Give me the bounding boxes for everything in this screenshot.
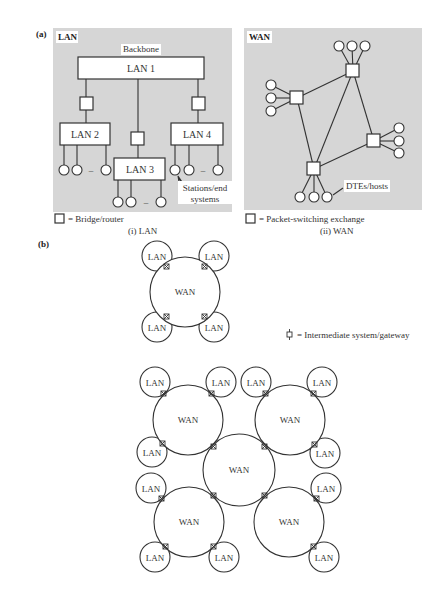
svg-text:WAN: WAN (175, 287, 196, 297)
bridge-router-icon (131, 132, 144, 145)
lan-3-label: LAN 3 (126, 164, 154, 175)
wan-panel-background (244, 28, 422, 210)
station-icon (170, 165, 180, 175)
station-icon (184, 165, 194, 175)
pse-legend-icon (246, 214, 255, 223)
station-icon (113, 197, 123, 207)
svg-text:LAN: LAN (146, 378, 165, 388)
station-icon (72, 165, 82, 175)
svg-text:LAN: LAN (143, 448, 162, 458)
station-icon (213, 165, 223, 175)
simple-internetwork: LAN LAN LAN LAN WAN (142, 241, 229, 342)
wan-panel: WAN (244, 28, 422, 210)
packet-switching-exchange-icon (367, 134, 380, 147)
svg-text:LAN: LAN (247, 378, 266, 388)
svg-text:WAN: WAN (229, 465, 250, 475)
lan-panel: LAN Backbone LAN 1 LAN 2 LAN 4 (53, 28, 232, 212)
lan-panel-title: LAN (58, 32, 78, 42)
host-icon (394, 136, 404, 146)
bridge-router-icon (80, 97, 93, 110)
host-icon (334, 41, 344, 51)
lan-2-label: LAN 2 (71, 129, 99, 140)
bridge-router-icon (192, 97, 205, 110)
svg-text:LAN: LAN (315, 553, 334, 563)
wan-panel-title: WAN (249, 32, 271, 42)
svg-text:LAN: LAN (142, 484, 161, 494)
host-icon (394, 148, 404, 158)
host-icon (266, 106, 276, 116)
svg-text:WAN: WAN (279, 517, 300, 527)
part-a-label: (a) (36, 29, 47, 39)
networking-figure: (a) LAN Backbone LAN 1 LAN 2 (0, 0, 445, 603)
svg-text:LAN: LAN (215, 553, 234, 563)
stations-label-2: systems (191, 194, 220, 204)
host-icon (266, 80, 276, 90)
svg-text:–: – (143, 197, 149, 207)
station-icon (101, 165, 111, 175)
bridge-router-legend-icon (55, 214, 64, 223)
svg-text:LAN: LAN (205, 252, 224, 262)
lan-caption: (i) LAN (128, 226, 158, 236)
svg-text:LAN: LAN (205, 323, 224, 333)
packet-switching-exchange-icon (307, 162, 320, 175)
backbone-label: Backbone (123, 44, 159, 54)
station-icon (156, 197, 166, 207)
svg-text:LAN: LAN (148, 252, 167, 262)
svg-text:LAN: LAN (146, 553, 165, 563)
gateway-legend-icon (287, 329, 292, 340)
svg-text:–: – (88, 165, 94, 175)
station-icon (126, 197, 136, 207)
host-icon (309, 192, 319, 202)
svg-text:WAN: WAN (179, 517, 200, 527)
lan-legend: = Bridge/router (68, 214, 124, 224)
svg-text:–: – (200, 165, 206, 175)
packet-switching-exchange-icon (290, 91, 303, 104)
wan-legend: = Packet-switching exchange (259, 214, 365, 224)
packet-switching-exchange-icon (346, 64, 359, 77)
svg-text:WAN: WAN (280, 415, 301, 425)
svg-text:LAN: LAN (316, 449, 335, 459)
hosts-label: DTEs/hosts (346, 181, 389, 191)
lan-4-label: LAN 4 (183, 129, 211, 140)
stations-label: Stations/end (183, 183, 228, 193)
host-icon (347, 41, 357, 51)
lan-1-label: LAN 1 (127, 63, 155, 74)
host-icon (295, 192, 305, 202)
host-icon (322, 192, 332, 202)
host-icon (360, 41, 370, 51)
gateway-legend: = Intermediate system/gateway (297, 330, 410, 340)
host-icon (394, 123, 404, 133)
complex-internetwork: LAN LAN LAN LAN LAN LAN LAN LAN LAN LAN … (136, 367, 341, 572)
station-icon (59, 165, 69, 175)
svg-text:LAN: LAN (317, 484, 336, 494)
svg-text:LAN: LAN (148, 323, 167, 333)
host-icon (266, 93, 276, 103)
wan-caption: (ii) WAN (320, 226, 354, 236)
svg-text:WAN: WAN (178, 415, 199, 425)
svg-text:LAN: LAN (212, 378, 231, 388)
svg-text:LAN: LAN (313, 378, 332, 388)
part-b-label: (b) (38, 239, 49, 249)
